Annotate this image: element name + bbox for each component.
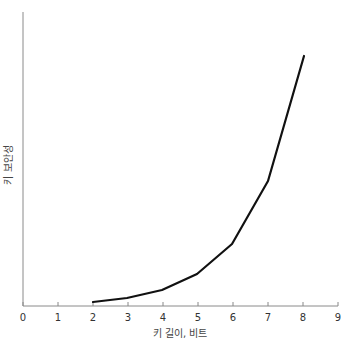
x-tick-label: 0 — [20, 312, 26, 323]
x-tick-labels: 0123456789 — [20, 312, 341, 323]
x-tick-label: 8 — [300, 312, 306, 323]
x-ticks — [23, 302, 338, 306]
x-tick-label: 2 — [90, 312, 96, 323]
x-tick-label: 5 — [195, 312, 201, 323]
x-tick-label: 9 — [335, 312, 341, 323]
x-tick-label: 7 — [265, 312, 271, 323]
series-line — [93, 56, 304, 302]
x-tick-label: 6 — [230, 312, 236, 323]
x-axis-label: 키 길이, 비트 — [153, 327, 208, 339]
x-tick-label: 4 — [160, 312, 166, 323]
y-axis-label: 키 보안성 — [3, 145, 14, 184]
x-tick-label: 1 — [55, 312, 61, 323]
x-tick-label: 3 — [125, 312, 131, 323]
line-chart: 0123456789 키 길이, 비트 키 보안성 — [0, 0, 352, 351]
